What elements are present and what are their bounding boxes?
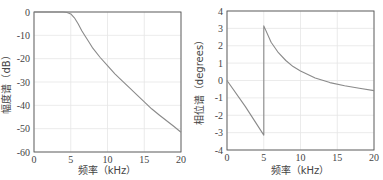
x-tick-label: 10: [296, 152, 306, 163]
x-tick-label: 10: [103, 154, 113, 165]
x-tick-label: 5: [261, 152, 266, 163]
y-tick-label: -20: [17, 53, 30, 64]
y-tick-label: -3: [215, 127, 223, 138]
y-tick-label: -2: [215, 110, 223, 121]
y-tick-label: 3: [218, 23, 223, 34]
y-axis-label: 相位谱（degrees）: [193, 35, 205, 125]
y-tick-label: -50: [17, 123, 30, 134]
x-tick-label: 15: [332, 152, 342, 163]
y-axis-label: 幅度谱（dB）: [0, 50, 12, 113]
y-tick-label: -40: [17, 100, 30, 111]
y-tick-label: -10: [17, 30, 30, 41]
y-tick-label: 0: [218, 75, 223, 86]
chart-canvas: 051015200-10-20-30-40-50-60频率（kHz）幅度谱（dB…: [0, 0, 383, 180]
y-tick-label: 1: [218, 58, 223, 69]
x-tick-label: 0: [32, 154, 37, 165]
y-tick-label: -1: [215, 92, 223, 103]
x-axis-label: 频率（kHz）: [271, 164, 330, 176]
y-tick-label: 4: [218, 6, 223, 17]
x-axis-label: 频率（kHz）: [78, 164, 137, 176]
y-tick-label: -60: [17, 147, 30, 158]
x-tick-label: 20: [369, 152, 379, 163]
x-tick-label: 15: [139, 154, 149, 165]
x-tick-label: 20: [176, 154, 186, 165]
x-tick-label: 0: [225, 152, 230, 163]
y-tick-label: 0: [25, 7, 30, 18]
y-tick-label: -30: [17, 77, 30, 88]
x-tick-label: 5: [68, 154, 73, 165]
y-tick-label: 2: [218, 40, 223, 51]
y-tick-label: -4: [215, 145, 223, 156]
